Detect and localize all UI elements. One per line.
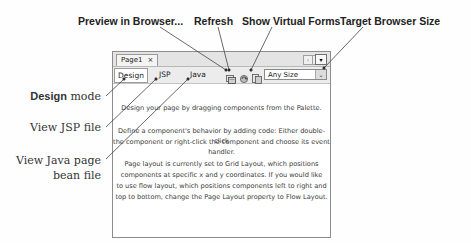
jsp-mode-tab[interactable]: JSP <box>156 68 174 81</box>
design-canvas-grid[interactable]: Design your page by dragging components … <box>113 84 330 237</box>
callout-target-browser-size: Target Browser Size <box>340 15 440 27</box>
side-label-view-java: View Java pagebean file <box>0 153 101 183</box>
callout-refresh: Refresh <box>194 15 233 27</box>
document-list-button[interactable]: ▾ <box>315 54 327 65</box>
close-tab-icon[interactable]: × <box>147 56 153 64</box>
callout-show-virtual-forms: Show Virtual Forms <box>242 15 340 27</box>
canvas-hint-behavior-2: the component or right-click the compone… <box>113 137 330 157</box>
target-browser-size-dropdown[interactable]: Any Size ⌄ <box>264 69 327 80</box>
callout-preview-in-browser: Preview in Browser... <box>78 15 183 27</box>
side-label-design-mode: Design mode <box>0 89 101 104</box>
preview-in-browser-icon[interactable] <box>226 69 236 79</box>
editor-toolbar: Design JSP Java Any Size ⌄ <box>113 67 330 84</box>
design-mode-tab[interactable]: Design <box>114 68 148 83</box>
java-mode-tab[interactable]: Java <box>187 68 209 81</box>
target-size-value: Any Size <box>268 71 298 79</box>
canvas-hint-layout-2: components at specific x and y coordinat… <box>113 170 330 180</box>
tab-label: Page1 <box>121 56 142 64</box>
refresh-icon[interactable] <box>239 69 249 79</box>
canvas-hint-palette: Design your page by dragging components … <box>113 103 330 113</box>
visual-editor-window: Page1× ‹ › ▾ Design JSP Java Any Size ⌄ … <box>112 51 331 238</box>
document-tab-bar: Page1× ‹ › ▾ <box>113 52 330 67</box>
chevron-down-icon[interactable]: ⌄ <box>315 70 326 79</box>
side-label-view-jsp: View JSP file <box>0 120 101 135</box>
show-virtual-forms-icon[interactable] <box>252 69 262 79</box>
tab-page1[interactable]: Page1× <box>116 54 158 66</box>
canvas-hint-layout-3: to use flow layout, which positions comp… <box>113 181 330 191</box>
canvas-hint-layout-4: top to bottom, change the Page Layout pr… <box>113 192 330 202</box>
canvas-hint-layout-1: Page layout is currently set to Grid Lay… <box>113 159 330 169</box>
